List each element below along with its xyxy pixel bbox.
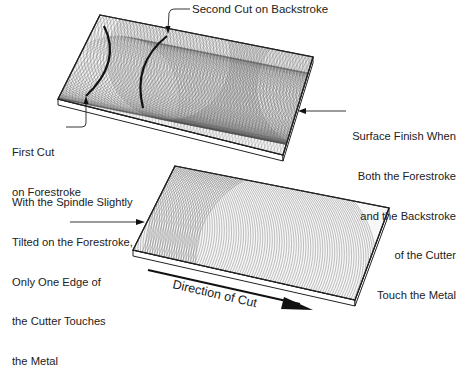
surface-finish-line: Touch the Metal [346,289,456,302]
tilted-spindle-line: the Cutter Touches [12,315,133,328]
tilted-spindle-line: With the Spindle Slightly [12,196,133,209]
second-cut-label: Second Cut on Backstroke [192,3,328,16]
surface-finish-line: Both the Forestroke [346,170,456,183]
surface-finish-line: and the Backstroke [346,210,456,223]
tilted-spindle-line: the Metal [12,355,133,368]
arrowhead-tilted-spindle [136,219,145,225]
surface-finish-line: Surface Finish When [346,130,456,143]
leader-second-cut [168,9,190,30]
first-cut-label-line: First Cut [12,146,81,159]
surface-finish-line: of the Cutter [346,249,456,262]
direction-of-cut-label: Direction of Cut [171,277,259,310]
surface-finish-label: Surface Finish When Both the Forestroke … [346,104,456,315]
tilted-spindle-label: With the Spindle Slightly Tilted on the … [12,170,133,369]
tilted-spindle-line: Only One Edge of [12,276,133,289]
tilted-spindle-line: Tilted on the Forestroke, [12,236,133,249]
